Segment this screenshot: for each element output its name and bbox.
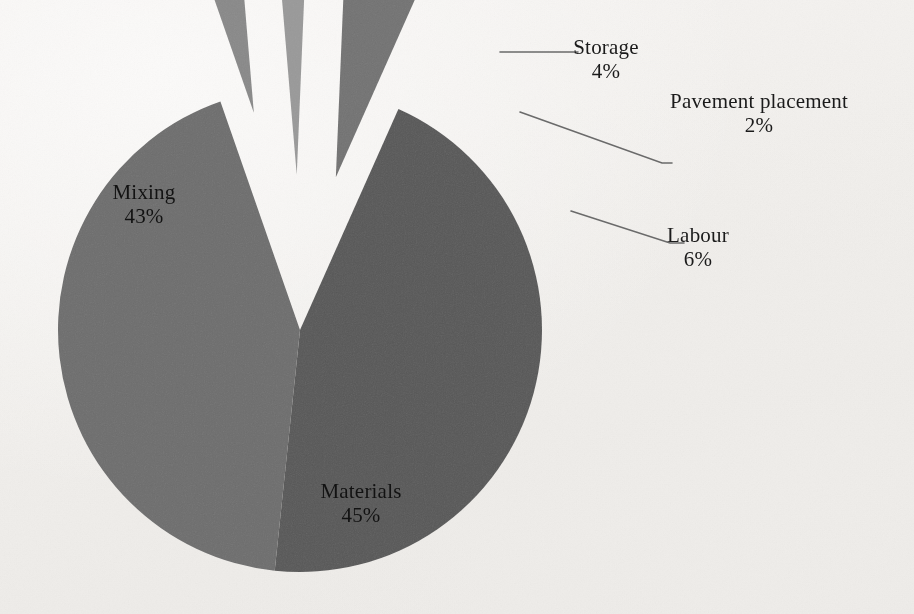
slice-label-pavement-placement: Pavement placement 2% [614,90,904,138]
slice-label-mixing-percent: 43% [74,205,214,229]
pie-slice-mixing[interactable] [58,101,300,570]
slice-label-labour-percent: 6% [608,248,788,272]
slice-label-labour-name: Labour [667,223,729,247]
pie-slice-pavement[interactable] [277,0,307,175]
slice-label-mixing-name: Mixing [112,180,175,204]
slice-label-materials-percent: 45% [276,504,446,528]
slice-label-pavement-placement-percent: 2% [614,114,904,138]
pie-slice-pavement-group[interactable] [277,0,307,175]
slice-label-mixing: Mixing 43% [74,181,214,229]
pie-slice-storage-group[interactable] [174,0,254,113]
slice-label-storage: Storage 4% [516,36,696,84]
slice-label-storage-percent: 4% [516,60,696,84]
slice-label-labour: Labour 6% [608,224,788,272]
pie-slice-storage[interactable] [174,0,254,113]
chart-page: Mixing 43% Materials 45% Storage 4% Pave… [0,0,914,614]
slice-label-pavement-placement-name: Pavement placement [670,89,848,113]
slice-label-storage-name: Storage [573,35,639,59]
slice-label-materials-name: Materials [320,479,401,503]
slice-label-materials: Materials 45% [276,480,446,528]
